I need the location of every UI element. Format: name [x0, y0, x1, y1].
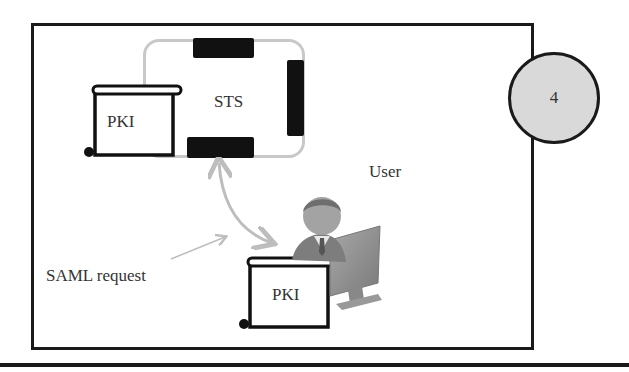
user-label: User [369, 162, 401, 182]
saml-pointer-arrow [171, 237, 225, 259]
pki-bottom-label: PKI [272, 285, 299, 305]
pki-top-label: PKI [107, 112, 134, 132]
saml-request-label: SAML request [46, 266, 146, 286]
user-person-icon [292, 197, 346, 262]
diagram-graphics [0, 0, 629, 372]
sts-user-arrow [219, 163, 272, 243]
monitor-icon [330, 226, 382, 310]
